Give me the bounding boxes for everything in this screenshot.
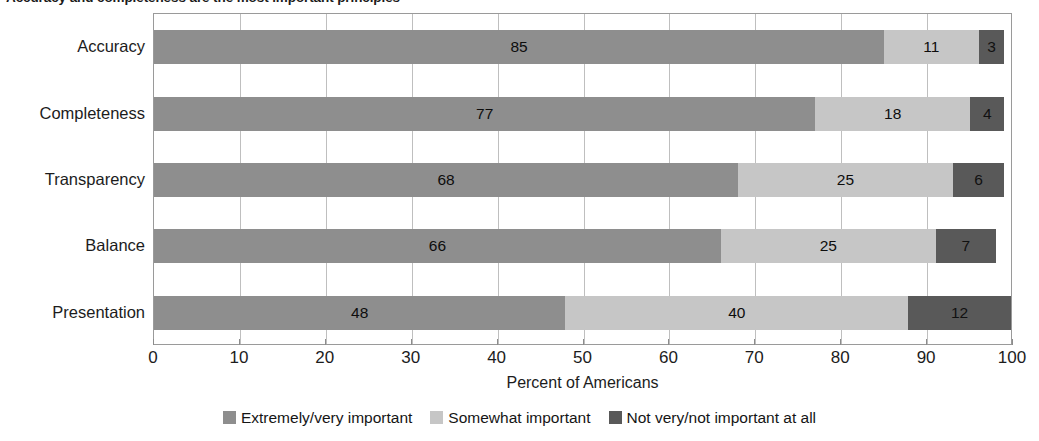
legend-item[interactable]: Not very/not important at all [609,410,817,426]
x-tick-label: 30 [401,349,420,366]
bar-row[interactable]: 77184 [154,97,1011,131]
bar-segment[interactable]: 25 [738,163,953,197]
bar-value-label: 66 [429,238,446,254]
bar-value-label: 40 [728,305,745,321]
category-label: Completeness [0,105,145,122]
x-tick-mark [325,339,326,345]
x-tick-mark [1012,339,1013,345]
x-tick-mark [583,339,584,345]
category-label: Presentation [0,304,145,321]
x-tick-mark [411,339,412,345]
legend-label: Somewhat important [448,410,590,426]
x-tick-mark [754,339,755,345]
bar-segment[interactable]: 18 [815,97,970,131]
bar-value-label: 77 [476,106,493,122]
x-tick-label: 0 [148,349,157,366]
bar-value-label: 11 [923,39,939,55]
bar-row[interactable]: 66257 [154,229,1011,263]
legend-item[interactable]: Extremely/very important [223,410,412,426]
bar-segment[interactable]: 25 [721,229,936,263]
bar-value-label: 68 [437,172,454,188]
legend-label: Not very/not important at all [627,410,817,426]
bar-value-label: 18 [884,106,901,122]
bar-value-label: 85 [510,39,527,55]
bar-segment[interactable]: 66 [154,229,721,263]
chart-title: Accuracy and completeness are the most i… [6,0,1026,6]
x-axis-title: Percent of Americans [153,375,1012,391]
x-tick-label: 20 [315,349,334,366]
x-tick-mark [153,339,154,345]
bar-value-label: 7 [961,238,970,254]
legend-swatch [430,411,443,424]
bar-segment[interactable]: 7 [936,229,996,263]
bar-row[interactable]: 85113 [154,30,1011,64]
bar-segment[interactable]: 4 [970,97,1004,131]
x-tick-label: 10 [229,349,248,366]
chart-legend: Extremely/very importantSomewhat importa… [0,410,1039,426]
legend-label: Extremely/very important [241,410,412,426]
legend-swatch [223,411,236,424]
bar-value-label: 25 [837,172,854,188]
bar-segment[interactable]: 40 [565,296,908,330]
bar-value-label: 25 [820,238,837,254]
bar-value-label: 48 [351,305,368,321]
bar-value-label: 3 [987,39,996,55]
legend-swatch [609,411,622,424]
x-tick-label: 90 [917,349,936,366]
x-tick-mark [239,339,240,345]
bar-segment[interactable]: 3 [979,30,1005,64]
x-axis-tick-labels: 0102030405060708090100 [153,349,1012,371]
x-tick-label: 60 [659,349,678,366]
bar-segment[interactable]: 85 [154,30,884,64]
x-tick-label: 50 [573,349,592,366]
bar-row[interactable]: 68256 [154,163,1011,197]
x-tick-mark [668,339,669,345]
bar-segment[interactable]: 11 [884,30,978,64]
bar-value-label: 6 [974,172,983,188]
bar-segment[interactable]: 6 [953,163,1005,197]
bar-segment[interactable]: 68 [154,163,738,197]
x-tick-label: 70 [745,349,764,366]
plot-area: 85113771846825666257484012 [153,13,1012,345]
x-tick-label: 100 [998,349,1026,366]
category-axis-labels: AccuracyCompletenessTransparencyBalanceP… [0,13,145,345]
bar-segment[interactable]: 48 [154,296,565,330]
x-tick-mark [926,339,927,345]
x-tick-mark [840,339,841,345]
category-label: Balance [0,237,145,254]
bar-segment[interactable]: 77 [154,97,815,131]
x-tick-mark [497,339,498,345]
x-tick-label: 40 [487,349,506,366]
bar-value-label: 12 [951,305,968,321]
bars-layer: 85113771846825666257484012 [154,14,1011,344]
category-label: Transparency [0,171,145,188]
x-tick-label: 80 [831,349,850,366]
category-label: Accuracy [0,38,145,55]
bar-row[interactable]: 484012 [154,296,1011,330]
bar-value-label: 4 [983,106,992,122]
legend-item[interactable]: Somewhat important [430,410,590,426]
bar-segment[interactable]: 12 [908,296,1011,330]
